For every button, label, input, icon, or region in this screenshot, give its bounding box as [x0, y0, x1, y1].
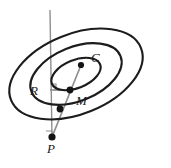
geometry-figure: C M R P — [0, 0, 171, 168]
point-p — [48, 133, 55, 140]
point-m — [67, 87, 74, 94]
label-p: P — [46, 141, 55, 156]
point-c — [78, 62, 84, 68]
label-r: R — [29, 83, 38, 98]
label-m: M — [75, 93, 88, 108]
label-c: C — [91, 50, 100, 65]
point-q — [57, 106, 64, 113]
